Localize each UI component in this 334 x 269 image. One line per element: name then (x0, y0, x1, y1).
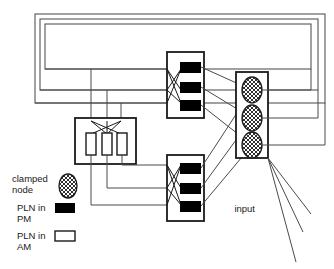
pln-am-module[interactable] (75, 118, 136, 164)
am-node-1[interactable] (86, 133, 96, 155)
open-rect-icon (55, 231, 75, 241)
wire-cn1-frame3 (262, 69, 311, 90)
wire-cn3-frame1 (262, 103, 325, 145)
input-label: input (234, 203, 255, 214)
am-node-2[interactable] (102, 133, 112, 155)
clamped-node-1[interactable] (242, 77, 262, 103)
pm-lower-node-2[interactable] (180, 183, 201, 194)
input-line-3 (268, 158, 296, 262)
pm-upper-node-2[interactable] (180, 82, 201, 93)
clamped-to-frame-wires (262, 69, 325, 145)
legend-pm-label-line2: PM (17, 213, 31, 224)
wire-cn2-frame2 (262, 90, 318, 118)
network-diagram: input clamped node PLN in PM PLN in AM (0, 0, 334, 269)
frame-to-pm-upper-wires (35, 69, 167, 103)
pm-upper-node-3[interactable] (180, 100, 201, 111)
legend-pm-label-line1: PLN in (17, 202, 46, 213)
clamped-node-3[interactable] (242, 132, 262, 158)
filled-rect-icon (55, 203, 75, 213)
clamped-node-2[interactable] (242, 105, 262, 131)
hatched-ellipse-icon (59, 174, 77, 198)
input-line-1 (268, 158, 311, 214)
legend-clamped-label-line1: clamped (12, 173, 48, 184)
legend-clamped-label-line2: node (12, 184, 33, 195)
diagram-canvas: input clamped node PLN in PM PLN in AM (0, 0, 334, 269)
legend: clamped node PLN in PM PLN in AM (12, 173, 77, 252)
pm-upper-node-1[interactable] (180, 62, 201, 73)
input-line-2 (268, 158, 303, 232)
pm-lower-node-1[interactable] (180, 163, 201, 174)
am-node-3[interactable] (117, 133, 127, 155)
pln-pm-module-lower[interactable] (167, 155, 204, 221)
legend-am-label-line2: AM (17, 241, 31, 252)
pm-lower-node-3[interactable] (180, 201, 201, 212)
frame-to-am-wires (91, 69, 121, 121)
legend-am-label-line1: PLN in (17, 230, 46, 241)
pln-pm-module-upper[interactable] (167, 52, 204, 118)
input-lines (268, 158, 311, 262)
